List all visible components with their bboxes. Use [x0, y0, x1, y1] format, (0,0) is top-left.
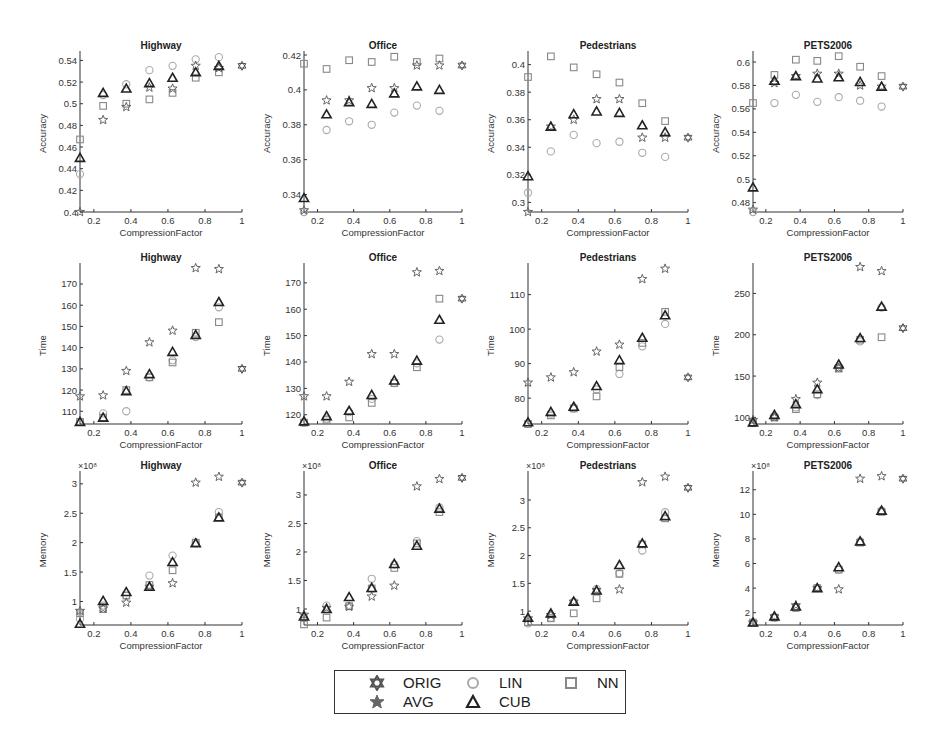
triangle-marker-icon	[465, 694, 481, 710]
y-tick-label: 6	[745, 558, 750, 569]
y-tick-label: 1.5	[512, 578, 525, 589]
y-axis-exponent: ×10⁸	[751, 461, 770, 471]
legend-item-orig: ORIG	[369, 674, 441, 691]
y-tick-label: 0.48	[732, 197, 751, 208]
y-tick-label: 0.4	[512, 59, 525, 70]
x-tick-label: 0.8	[198, 215, 211, 226]
x-tick-label: 0.2	[87, 215, 100, 226]
legend: ORIG LIN NN AVG CUB	[334, 670, 626, 714]
x-tick-label: 1	[239, 215, 244, 226]
x-tick-label: 1	[239, 628, 244, 639]
y-tick-label: 160	[285, 304, 301, 315]
y-tick-label: 170	[61, 278, 77, 289]
subplot-time-pets2006: PETS20060.20.40.60.81CompressionFactor10…	[710, 252, 907, 450]
x-axis-label: CompressionFactor	[567, 439, 650, 450]
subplot-title: PETS2006	[804, 252, 853, 263]
subplot-title: PETS2006	[804, 460, 853, 471]
y-tick-label: 100	[509, 324, 525, 335]
x-tick-label: 0.2	[535, 427, 548, 438]
x-tick-label: 0.8	[862, 427, 875, 438]
y-tick-label: 150	[285, 330, 301, 341]
x-tick-label: 0.8	[862, 628, 875, 639]
subplot-memory-highway: Highway0.20.40.60.81CompressionFactor11.…	[37, 460, 246, 651]
x-tick-label: 0.2	[311, 628, 324, 639]
x-tick-label: 0.8	[198, 628, 211, 639]
y-tick-label: 4	[745, 583, 750, 594]
subplot-accuracy-pets2006: PETS20060.20.40.60.81CompressionFactor0.…	[710, 40, 907, 238]
x-tick-label: 0.2	[759, 427, 772, 438]
y-tick-label: 0.44	[59, 163, 78, 174]
x-tick-label: 0.2	[759, 628, 772, 639]
y-tick-label: 2.5	[288, 518, 301, 529]
y-tick-label: 130	[285, 383, 301, 394]
x-tick-label: 0.8	[645, 215, 658, 226]
subplot-memory-office: Office0.20.40.60.81CompressionFactor11.5…	[261, 460, 466, 651]
subplot-title: Office	[369, 252, 398, 263]
x-tick-label: 0.2	[311, 427, 324, 438]
y-tick-label: 3	[520, 495, 525, 506]
y-tick-label: 250	[734, 288, 750, 299]
x-tick-label: 1	[685, 215, 690, 226]
y-axis-label: Accuracy	[37, 114, 48, 153]
x-axis-label: CompressionFactor	[120, 227, 203, 238]
x-tick-label: 0.4	[572, 215, 585, 226]
y-axis-label: Memory	[261, 533, 272, 568]
y-tick-label: 0.5	[737, 174, 750, 185]
x-tick-label: 0.2	[535, 215, 548, 226]
subplot-accuracy-pedestrians: Pedestrians0.20.40.60.81CompressionFacto…	[485, 40, 692, 238]
x-tick-label: 0.8	[419, 427, 432, 438]
y-tick-label: 0.36	[507, 114, 526, 125]
x-axis-label: CompressionFactor	[787, 640, 870, 651]
x-tick-label: 0.4	[794, 215, 807, 226]
subplot-title: Highway	[140, 40, 182, 51]
x-tick-label: 0.4	[124, 215, 137, 226]
x-tick-label: 1	[900, 628, 905, 639]
y-tick-label: 2.5	[64, 508, 77, 519]
y-axis-label: Time	[261, 335, 272, 356]
y-tick-label: 2.5	[512, 522, 525, 533]
star-marker-icon	[369, 694, 385, 710]
x-tick-label: 0.6	[608, 215, 621, 226]
y-axis-exponent: ×10⁸	[302, 461, 321, 471]
x-tick-label: 0.6	[383, 215, 396, 226]
x-tick-label: 0.4	[124, 628, 137, 639]
y-tick-label: 0.36	[283, 154, 302, 165]
y-tick-label: 0.3	[512, 197, 525, 208]
x-tick-label: 0.4	[794, 628, 807, 639]
y-tick-label: 2	[72, 537, 77, 548]
x-tick-label: 1	[459, 427, 464, 438]
y-tick-label: 0.42	[283, 50, 302, 61]
y-tick-label: 1	[520, 606, 525, 617]
x-axis-label: CompressionFactor	[342, 439, 425, 450]
y-axis-exponent: ×10⁸	[526, 461, 545, 471]
legend-label: CUB	[499, 693, 531, 710]
y-tick-label: 1.5	[64, 567, 77, 578]
y-tick-label: 12	[739, 484, 750, 495]
y-tick-label: 2	[520, 550, 525, 561]
y-tick-label: 0.54	[732, 127, 751, 138]
y-axis-label: Memory	[485, 533, 496, 568]
y-tick-label: 0.48	[59, 120, 78, 131]
y-tick-label: 0.38	[507, 87, 526, 98]
y-tick-label: 0.38	[283, 119, 302, 130]
circle-marker-icon	[465, 675, 481, 691]
subplot-title: Office	[369, 460, 398, 471]
y-tick-label: 120	[285, 409, 301, 420]
x-tick-label: 1	[900, 427, 905, 438]
y-axis-label: Time	[710, 335, 721, 356]
y-axis-label: Accuracy	[485, 114, 496, 153]
x-axis-label: CompressionFactor	[342, 640, 425, 651]
x-tick-label: 1	[900, 215, 905, 226]
y-tick-label: 120	[61, 385, 77, 396]
x-tick-label: 1	[459, 215, 464, 226]
x-tick-label: 0.2	[87, 628, 100, 639]
x-axis-label: CompressionFactor	[787, 227, 870, 238]
x-tick-label: 1	[239, 427, 244, 438]
x-tick-label: 0.4	[572, 427, 585, 438]
legend-label: ORIG	[403, 674, 441, 691]
subplot-accuracy-office: Office0.20.40.60.81CompressionFactor0.34…	[261, 40, 466, 238]
x-axis-label: CompressionFactor	[120, 439, 203, 450]
y-tick-label: 10	[739, 509, 750, 520]
y-tick-label: 1	[72, 596, 77, 607]
subplot-title: Pedestrians	[580, 252, 637, 263]
